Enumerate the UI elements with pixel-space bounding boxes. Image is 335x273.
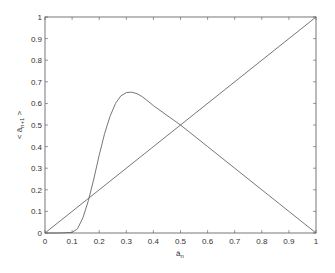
x-tick-label: 0.2 [94,237,106,246]
x-tick-label: 0.3 [121,237,133,246]
x-tick-label: 0.1 [67,237,79,246]
y-tick-label: 0.9 [31,35,43,44]
x-tick-label: 0.7 [229,237,241,246]
y-tick-label: 0.7 [31,78,43,87]
series-line-map [45,92,316,233]
y-tick-label: 0.3 [31,164,43,173]
x-axis-label: ân [176,249,184,259]
y-tick-label: 0.6 [31,99,43,108]
series-group [45,17,316,233]
x-tick-label: 0 [43,237,48,246]
y-axis-label: < ân+1 > [15,110,25,139]
y-tick-label: 0.4 [31,143,43,152]
y-tick-label: 0.5 [31,121,43,130]
y-tick-label: 0.1 [31,207,43,216]
chart: 00.10.20.30.40.50.60.70.80.91 00.10.20.3… [0,0,335,273]
x-tick-label: 1 [314,237,319,246]
x-tick-label: 0.5 [175,237,187,246]
x-ticks: 00.10.20.30.40.50.60.70.80.91 [43,17,319,246]
y-tick-label: 0 [38,229,43,238]
x-tick-label: 0.9 [283,237,295,246]
y-ticks: 00.10.20.30.40.50.60.70.80.91 [31,13,316,238]
x-tick-label: 0.6 [202,237,214,246]
y-tick-label: 1 [38,13,43,22]
y-tick-label: 0.2 [31,186,43,195]
x-tick-label: 0.8 [256,237,268,246]
x-tick-label: 0.4 [148,237,160,246]
y-tick-label: 0.8 [31,56,43,65]
